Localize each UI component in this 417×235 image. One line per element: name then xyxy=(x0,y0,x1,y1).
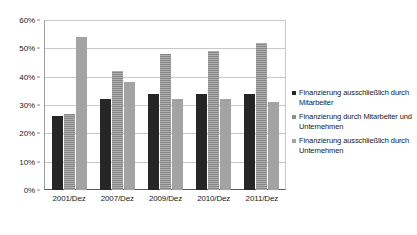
bar xyxy=(196,94,207,190)
bar xyxy=(244,94,255,190)
legend-swatch-icon xyxy=(292,115,296,119)
y-axis-tick-mark xyxy=(37,161,40,162)
y-axis-tick-mark xyxy=(37,105,40,106)
y-axis-tick-label: 30% xyxy=(19,101,35,110)
bar xyxy=(124,82,135,190)
bar-group xyxy=(95,20,139,190)
bar-group xyxy=(143,20,187,190)
y-axis: 0%10%20%30%40%50%60% xyxy=(0,20,40,190)
legend-item: Finanzierung ausschließlich durch Mitarb… xyxy=(292,88,416,107)
y-axis-tick-label: 50% xyxy=(19,44,35,53)
x-axis: 2001/Dez2007/Dez2009/Dez2010/Dez2011/Dez xyxy=(45,194,286,210)
x-axis-tick-label: 2011/Dez xyxy=(240,194,284,210)
y-axis-tick-mark xyxy=(37,48,40,49)
legend-label: Finanzierung ausschließlich durch Mitarb… xyxy=(299,88,416,107)
legend-swatch-icon xyxy=(292,139,296,143)
bar xyxy=(220,99,231,190)
bar-group xyxy=(47,20,91,190)
legend-label: Finanzierung durch Mitarbeiter und Unter… xyxy=(299,112,416,131)
bar xyxy=(100,99,111,190)
x-axis-tick-label: 2007/Dez xyxy=(95,194,139,210)
y-axis-tick-label: 60% xyxy=(19,16,35,25)
y-axis-tick-label: 20% xyxy=(19,129,35,138)
y-axis-tick-mark xyxy=(37,133,40,134)
bar xyxy=(64,114,75,191)
bar-chart: 0%10%20%30%40%50%60% 2001/Dez2007/Dez200… xyxy=(0,0,417,235)
bar xyxy=(208,51,219,190)
y-axis-tick-label: 0% xyxy=(24,186,35,195)
legend-item: Finanzierung durch Mitarbeiter und Unter… xyxy=(292,112,416,131)
legend-label: Finanzierung ausschließlich durch Untern… xyxy=(299,136,416,155)
y-axis-tick-label: 10% xyxy=(19,157,35,166)
bar xyxy=(148,94,159,190)
x-axis-tick-label: 2009/Dez xyxy=(143,194,187,210)
x-axis-tick-label: 2001/Dez xyxy=(47,194,91,210)
bar xyxy=(172,99,183,190)
legend-swatch-icon xyxy=(292,91,296,95)
bar xyxy=(268,102,279,190)
bar xyxy=(52,116,63,190)
x-axis-tick-label: 2010/Dez xyxy=(192,194,236,210)
bar-group xyxy=(192,20,236,190)
bar xyxy=(160,54,171,190)
y-axis-tick-mark xyxy=(37,190,40,191)
y-axis-tick-label: 40% xyxy=(19,72,35,81)
legend-item: Finanzierung ausschließlich durch Untern… xyxy=(292,136,416,155)
y-axis-tick-mark xyxy=(37,76,40,77)
bars-layer xyxy=(45,20,286,190)
bar xyxy=(76,37,87,190)
bar xyxy=(112,71,123,190)
y-axis-tick-mark xyxy=(37,20,40,21)
bar-group xyxy=(240,20,284,190)
legend: Finanzierung ausschließlich durch Mitarb… xyxy=(292,88,416,160)
bar xyxy=(256,43,267,190)
